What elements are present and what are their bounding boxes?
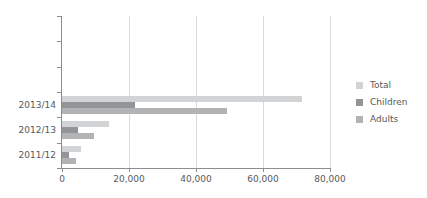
x-tick-label: 80,000: [314, 174, 346, 185]
x-axis-tick: [263, 168, 264, 172]
x-axis-tick: [129, 168, 130, 172]
category-label-2012-13: 2012/13: [4, 125, 56, 135]
legend-item-adults[interactable]: Adults: [356, 112, 426, 126]
x-axis-tick: [62, 168, 63, 172]
x-tick-label: 40,000: [180, 174, 212, 185]
x-axis-tick: [196, 168, 197, 172]
category-labels: 2013/142012/132011/12: [0, 16, 56, 168]
category-label-2013-14: 2013/14: [4, 100, 56, 110]
y-axis-tick: [57, 41, 62, 42]
bar-adults-2013-14: [62, 108, 227, 114]
legend-label: Adults: [370, 114, 398, 125]
legend: TotalChildrenAdults: [356, 78, 426, 129]
bar-chart: 2013/142012/132011/12 020,00040,00060,00…: [0, 0, 427, 198]
category-label-2011-12: 2011/12: [4, 150, 56, 160]
x-tick-labels: 020,00040,00060,00080,000: [0, 174, 427, 188]
x-axis-tick: [330, 168, 331, 172]
bar-adults-2012-13: [62, 133, 94, 139]
x-tick-label: 60,000: [247, 174, 279, 185]
legend-label: Children: [370, 97, 407, 108]
y-axis-tick: [57, 67, 62, 68]
legend-label: Total: [370, 80, 391, 91]
bar-group: [0, 143, 427, 168]
y-axis-tick: [57, 16, 62, 17]
legend-item-children[interactable]: Children: [356, 95, 426, 109]
legend-swatch-icon: [356, 82, 363, 89]
legend-item-total[interactable]: Total: [356, 78, 426, 92]
bar-adults-2011-12: [62, 158, 76, 164]
legend-swatch-icon: [356, 116, 363, 123]
x-tick-label: 20,000: [113, 174, 145, 185]
legend-swatch-icon: [356, 99, 363, 106]
x-tick-label: 0: [59, 174, 65, 185]
